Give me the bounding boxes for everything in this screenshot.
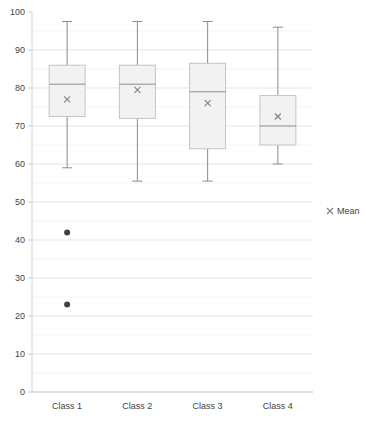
x-axis-tick-labels: Class 1Class 2Class 3Class 4: [52, 401, 293, 411]
y-axis-tick-label: 0: [20, 387, 25, 397]
box-plot-item: [190, 22, 226, 182]
legend-entry-mean[interactable]: Mean: [327, 206, 360, 216]
outlier-point: [64, 229, 70, 235]
plot-canvas: 0102030405060708090100 Class 1Class 2Cla…: [0, 0, 366, 423]
box-plot-item: [119, 22, 155, 182]
y-axis-tick-label: 70: [15, 121, 25, 131]
outlier-point: [64, 302, 70, 308]
box-plot-item: [49, 22, 85, 308]
box-iqr: [119, 65, 155, 118]
x-axis-tick-label: Class 2: [122, 401, 152, 411]
x-axis-tick-label: Class 1: [52, 401, 82, 411]
box-iqr: [260, 96, 296, 145]
y-axis-tick-label: 40: [15, 235, 25, 245]
y-axis-tick-label: 80: [15, 83, 25, 93]
box-iqr: [49, 65, 85, 116]
legend: Mean: [327, 206, 360, 216]
y-axis-tick-label: 60: [15, 159, 25, 169]
box-iqr: [190, 63, 226, 149]
y-axis-tick-label: 50: [15, 197, 25, 207]
box-plot-chart: 0102030405060708090100 Class 1Class 2Cla…: [0, 0, 366, 423]
box-plot-item: [260, 27, 296, 164]
y-axis-tick-label: 90: [15, 45, 25, 55]
y-axis-tick-label: 100: [10, 7, 25, 17]
y-axis-tick-labels: 0102030405060708090100: [10, 7, 25, 397]
x-axis-tick-label: Class 3: [193, 401, 223, 411]
legend-label: Mean: [337, 206, 360, 216]
x-axis-tick-label: Class 4: [263, 401, 293, 411]
y-axis-tick-label: 20: [15, 311, 25, 321]
y-axis-tick-label: 30: [15, 273, 25, 283]
box-plot-series: [49, 22, 296, 308]
y-axis-tick-label: 10: [15, 349, 25, 359]
